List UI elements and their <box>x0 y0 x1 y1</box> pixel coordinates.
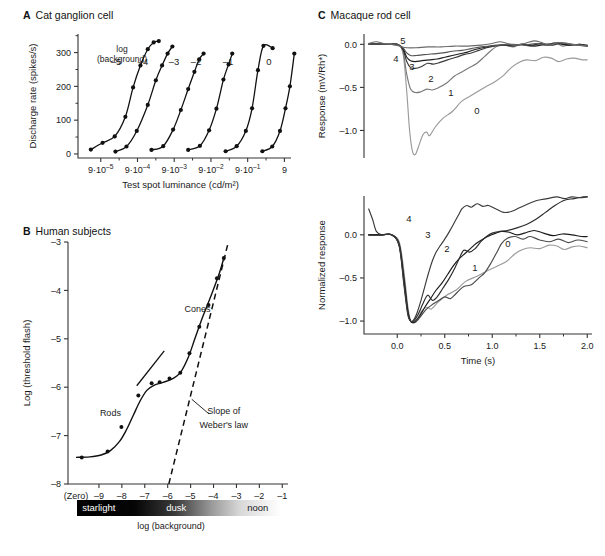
svg-text:Normalized response: Normalized response <box>316 220 327 310</box>
figure-canvas: ACat ganglion cell 01002003009·10–59·10–… <box>0 0 605 556</box>
svg-text:Time (s): Time (s) <box>461 355 495 366</box>
panel-c-bottom-chart: 0.0–0.5–1.00.00.51.01.52.0Time (s)Normal… <box>0 0 605 556</box>
svg-text:0.5: 0.5 <box>438 341 451 351</box>
svg-text:–0.5: –0.5 <box>339 273 357 283</box>
svg-text:2: 2 <box>444 243 449 254</box>
svg-text:1: 1 <box>472 262 477 273</box>
svg-text:0: 0 <box>505 238 510 249</box>
svg-text:–1.0: –1.0 <box>339 316 357 326</box>
svg-text:1.5: 1.5 <box>533 341 546 351</box>
svg-text:4: 4 <box>406 213 411 224</box>
svg-text:0.0: 0.0 <box>344 230 357 240</box>
svg-text:2.0: 2.0 <box>581 341 594 351</box>
svg-text:3: 3 <box>425 229 430 240</box>
svg-text:1.0: 1.0 <box>486 341 499 351</box>
svg-text:0.0: 0.0 <box>391 341 404 351</box>
